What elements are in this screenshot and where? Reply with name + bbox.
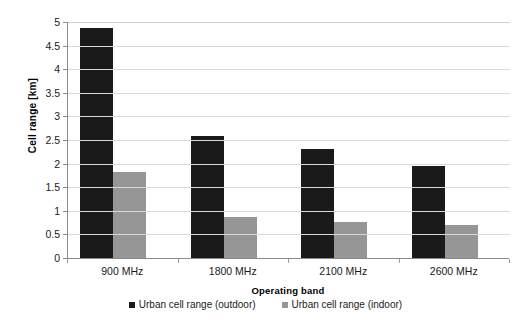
x-tick-label-2600-mhz: 2600 MHz <box>399 265 510 277</box>
x-axis-title: Operating band <box>67 285 509 296</box>
x-tick-label-2100-mhz: 2100 MHz <box>288 265 399 277</box>
x-tick-label-900-mhz: 900 MHz <box>67 265 178 277</box>
gridline <box>68 69 510 70</box>
y-tick-mark <box>63 93 67 94</box>
y-tick-label: 1 <box>8 206 60 216</box>
bar-900-mhz-outdoor <box>80 28 113 258</box>
legend-swatch-icon <box>282 302 288 308</box>
bar-900-mhz-indoor <box>113 172 146 258</box>
legend-item-outdoor[interactable]: Urban cell range (outdoor) <box>129 299 256 310</box>
y-tick-label: 2 <box>8 159 60 169</box>
gridline <box>68 211 510 212</box>
y-tick-mark <box>63 234 67 235</box>
bar-2100-mhz-outdoor <box>301 149 334 258</box>
x-tick-mark <box>509 259 510 263</box>
plot-area <box>67 22 509 259</box>
y-tick-label: 3.5 <box>8 88 60 98</box>
bar-1800-mhz-indoor <box>224 217 257 258</box>
y-tick-mark <box>63 211 67 212</box>
y-tick-mark <box>63 46 67 47</box>
x-tick-mark <box>399 259 400 263</box>
bar-1800-mhz-outdoor <box>191 136 224 258</box>
y-tick-label: 4.5 <box>8 41 60 51</box>
legend-label: Urban cell range (outdoor) <box>139 299 256 310</box>
gridline <box>68 140 510 141</box>
bar-2100-mhz-indoor <box>334 222 367 258</box>
y-tick-mark <box>63 116 67 117</box>
legend-label: Urban cell range (indoor) <box>292 299 403 310</box>
gridline <box>68 234 510 235</box>
x-tick-mark <box>288 259 289 263</box>
y-tick-label: 1.5 <box>8 182 60 192</box>
y-tick-label: 0 <box>8 253 60 263</box>
y-tick-mark <box>63 187 67 188</box>
y-tick-mark <box>63 164 67 165</box>
x-tick-mark <box>178 259 179 263</box>
y-tick-label: 0.5 <box>8 229 60 239</box>
y-tick-label: 5 <box>8 17 60 27</box>
chart-legend: Urban cell range (outdoor)Urban cell ran… <box>0 299 531 310</box>
gridline <box>68 164 510 165</box>
gridline <box>68 46 510 47</box>
legend-swatch-icon <box>129 302 135 308</box>
legend-item-indoor[interactable]: Urban cell range (indoor) <box>282 299 403 310</box>
y-tick-label: 3 <box>8 111 60 121</box>
y-tick-mark <box>63 69 67 70</box>
gridline <box>68 22 510 23</box>
gridline <box>68 116 510 117</box>
gridline <box>68 93 510 94</box>
y-tick-mark <box>63 140 67 141</box>
bar-2600-mhz-indoor <box>445 225 478 258</box>
y-tick-label: 2.5 <box>8 135 60 145</box>
y-tick-label: 4 <box>8 64 60 74</box>
x-tick-label-1800-mhz: 1800 MHz <box>178 265 289 277</box>
x-tick-mark <box>67 259 68 263</box>
y-tick-mark <box>63 22 67 23</box>
bar-chart: Cell range [km] 00.511.522.533.544.55 90… <box>0 0 531 322</box>
gridline <box>68 187 510 188</box>
